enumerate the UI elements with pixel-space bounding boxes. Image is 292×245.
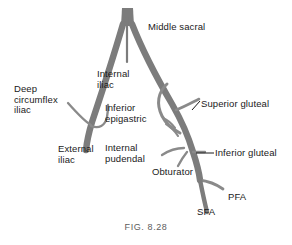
label-pfa: PFA [228,192,246,203]
label-obturator: Obturator [152,167,193,178]
label-middle-sacral: Middle sacral [148,22,205,33]
obturator-artery-vessel [178,152,187,166]
label-sfa: SFA [197,207,215,218]
figure-caption: FIG. 8.28 [0,222,292,232]
deep-circumflex-iliac-artery-vessel [68,103,91,125]
internal-pudendal-artery-vessel [162,148,184,155]
label-inferior-gluteal: Inferior gluteal [215,148,277,159]
figure-container: Middle sacral Deep circumflex iliac Inte… [0,0,292,245]
label-external-iliac: External iliac [58,144,94,165]
label-superior-gluteal: Superior gluteal [201,99,269,110]
label-internal-pudendal: Internal pudendal [105,143,145,164]
label-inferior-epigastric: Inferior epigastric [105,103,147,124]
label-internal-iliac: Internal iliac [97,69,130,90]
label-deep-circumflex-iliac: Deep circumflex iliac [14,84,58,116]
superior-gluteal-artery-vessel [176,99,199,110]
